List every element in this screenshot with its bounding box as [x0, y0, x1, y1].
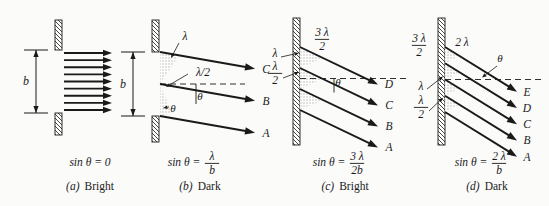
ray-label-b-d: B: [523, 134, 530, 146]
path-label-3lambda-2-c-denominator: 2: [319, 40, 325, 52]
angle-label-theta-c: θ: [335, 76, 341, 88]
slit-width-label-b: b: [120, 77, 126, 91]
angle-label-theta-b-2: θ: [170, 102, 176, 114]
figure-canvas: bsin θ = 0(a)BrightbCBAλλ/2θθsin θ =λb(b…: [0, 0, 549, 206]
slit-width-label: b: [23, 74, 29, 88]
equation-b-fraction-denominator: b: [209, 164, 215, 176]
equation-c-lhs: sin θ =: [313, 156, 346, 168]
ray-label-a-d: A: [522, 151, 531, 163]
path-label-3lambda-2-d-numerator: 3 λ: [411, 32, 426, 44]
equation-d-fraction-numerator: 2 λ: [492, 150, 506, 162]
ray-label-e-d: E: [522, 86, 530, 98]
path-label-3lambda-2-d-denominator: 2: [416, 46, 422, 58]
path-label-lambda-half-c-numerator: λ: [272, 60, 278, 72]
path-label-lambda-b: λ: [182, 30, 188, 42]
equation-a: sin θ = 0: [69, 156, 110, 168]
path-label-lambda-half-d-denominator: 2: [418, 108, 424, 120]
ray-label-c-c: C: [385, 99, 393, 111]
ray-label-a-b: A: [261, 127, 270, 139]
ray-label-d-d: D: [522, 102, 532, 114]
panel-c-label: (c)Bright: [321, 180, 369, 193]
angle-label-theta-d: θ: [497, 52, 503, 64]
panel-d-label: (d)Dark: [466, 180, 508, 193]
diffraction-figure: bsin θ = 0(a)BrightbCBAλλ/2θθsin θ =λb(b…: [0, 0, 549, 206]
equation-d-lhs: sin θ =: [455, 156, 488, 168]
ray-label-c-b: C: [262, 63, 270, 75]
ray-label-c-d: C: [523, 118, 531, 130]
equation-c-fraction-numerator: 3 λ: [349, 150, 364, 162]
path-label-lambda-half-d-numerator: λ: [418, 94, 424, 106]
angle-label-theta-b-1: θ: [197, 90, 203, 102]
path-label-lambda-half-c-denominator: 2: [272, 74, 278, 86]
equation-b-fraction-numerator: λ: [209, 150, 215, 162]
ray-label-a-c: A: [384, 141, 393, 153]
ray-label-b-c: B: [385, 120, 392, 132]
equation-b-lhs: sin θ =: [168, 156, 201, 168]
ray-label-b-b: B: [262, 95, 269, 107]
equation-c-fraction-denominator: 2b: [351, 164, 363, 176]
equation-d-fraction-denominator: b: [496, 164, 502, 176]
path-label-lambda-half-b: λ/2: [195, 66, 210, 78]
path-label-lambda-c: λ: [272, 47, 278, 59]
path-label-3lambda-2-c-numerator: 3 λ: [314, 26, 329, 38]
panel-b-label: (b)Dark: [179, 180, 221, 193]
path-label-lambda-d: λ: [418, 80, 424, 92]
ray-label-d-c: D: [384, 78, 394, 90]
path-label-2lambda-d: 2 λ: [455, 36, 469, 48]
panel-a-label: (a)Bright: [66, 180, 115, 193]
